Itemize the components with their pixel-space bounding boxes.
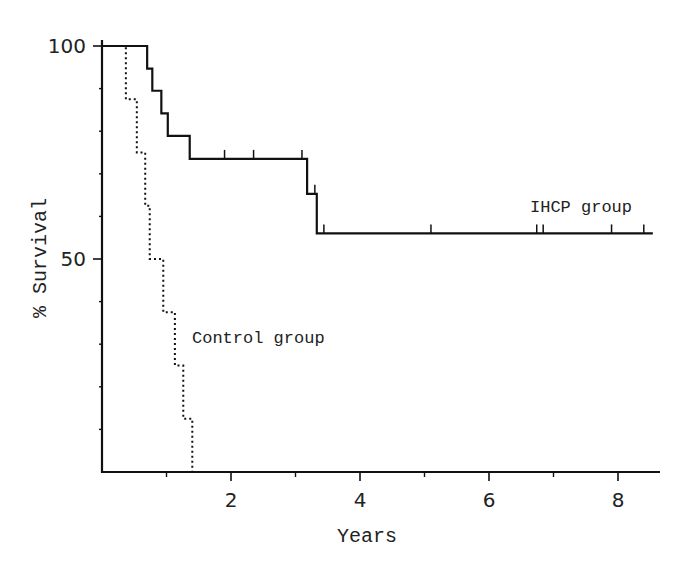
x-tick-label-2: 2	[225, 488, 238, 512]
ihcp-group-label: IHCP group	[530, 198, 632, 217]
survival-chart: 100 50 2 4 6 8 Years % Survival IHCP gro…	[0, 0, 696, 567]
series-group	[102, 46, 653, 472]
control-group-label: Control group	[192, 329, 325, 348]
control-group-curve	[102, 46, 192, 472]
x-tick-label-8: 8	[612, 488, 625, 512]
y-tick-label-100: 100	[48, 34, 86, 58]
x-tick-label-4: 4	[354, 488, 367, 512]
y-tick-label-50: 50	[61, 247, 86, 271]
axes	[93, 40, 660, 481]
x-axis-title: Years	[337, 525, 397, 548]
x-tick-label-6: 6	[483, 488, 496, 512]
y-axis-title: % Survival	[29, 198, 52, 318]
